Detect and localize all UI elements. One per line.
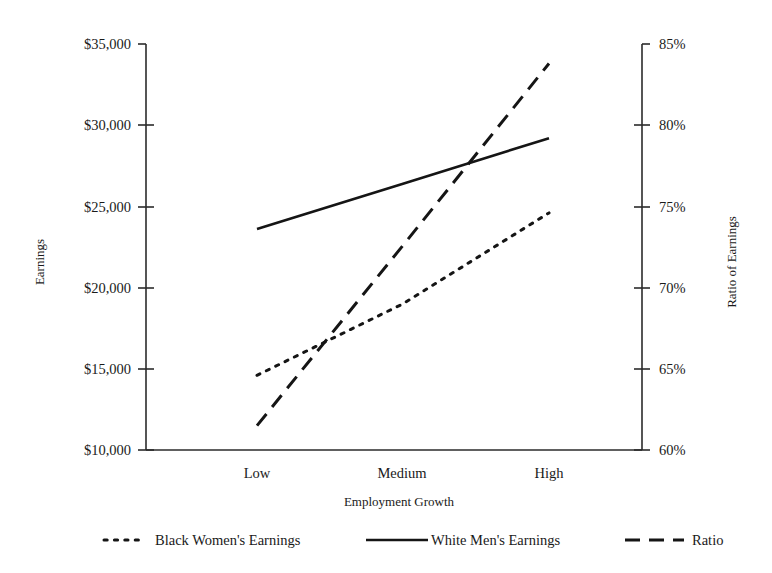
left-tick-label-30000: $30,000	[84, 117, 131, 133]
legend-label-ratio: Ratio	[692, 532, 723, 548]
x-category-high: High	[535, 465, 565, 481]
right-tick-label-75: 75%	[659, 199, 686, 215]
left-tick-label-15000: $15,000	[84, 361, 131, 377]
left-tick-label-10000: $10,000	[84, 442, 131, 458]
left-tick-label-35000: $35,000	[84, 36, 131, 52]
right-axis-title: Ratio of Earnings	[724, 216, 739, 308]
left-axis-title: Earnings	[32, 239, 47, 285]
left-tick-label-25000: $25,000	[84, 199, 131, 215]
right-tick-label-65: 65%	[659, 361, 686, 377]
right-tick-label-70: 70%	[659, 280, 686, 296]
x-category-medium: Medium	[377, 465, 427, 481]
left-tick-label-20000: $20,000	[84, 280, 131, 296]
legend-label-black-womens-earnings: Black Women's Earnings	[155, 532, 301, 548]
x-category-low: Low	[244, 465, 271, 481]
legend-label-white-mens-earnings: White Men's Earnings	[431, 532, 560, 548]
right-tick-label-80: 80%	[659, 117, 686, 133]
line-chart-svg: $35,000 $30,000 $25,000 $20,000 $15,000 …	[0, 0, 772, 573]
chart-container: $35,000 $30,000 $25,000 $20,000 $15,000 …	[0, 0, 772, 573]
right-tick-label-85: 85%	[659, 36, 686, 52]
x-axis-title: Employment Growth	[344, 494, 455, 509]
right-tick-label-60: 60%	[659, 442, 686, 458]
